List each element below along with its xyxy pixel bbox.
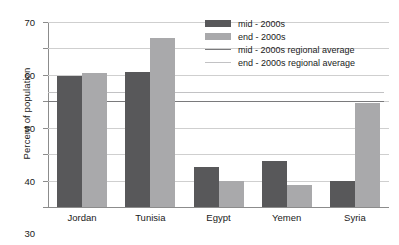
y-axis-tick: 60 [43,48,48,49]
legend-item: mid - 2000s regional average [205,43,355,56]
y-axis-tick-label: 60 [24,69,35,80]
y-axis-title: Percent of population [21,34,32,194]
legend-swatch-icon [205,20,231,27]
y-axis-tick: 30 [43,128,48,129]
legend-line-glyph [205,49,231,50]
bar-chart: Percent of population 010203040506070 Jo… [0,0,399,245]
bar [125,72,150,207]
legend-item: end - 2000s [205,30,355,43]
x-axis-line [48,207,389,208]
y-axis-tick: 50 [43,75,48,76]
legend-line-glyph [205,62,231,63]
x-axis-label: Egypt [206,212,230,223]
y-axis-tick-label: 70 [24,17,35,28]
bar [262,161,287,207]
legend-label: end - 2000s [238,32,286,42]
legend-item: end - 2000s regional average [205,56,355,69]
bar [82,73,107,207]
bar [194,167,219,207]
x-axis-label: Yemen [272,212,301,223]
legend-label: end - 2000s regional average [238,58,355,68]
bar [150,38,175,207]
y-axis-tick: 0 [43,207,48,208]
bar [57,76,82,207]
bar [355,103,380,207]
legend-line-icon [205,46,231,53]
legend-label: mid - 2000s regional average [238,45,355,55]
y-axis-tick-label: 30 [24,228,35,239]
x-axis-label: Tunisia [135,212,165,223]
y-axis-tick: 70 [43,22,48,23]
bar [219,181,244,207]
legend-swatch-icon [205,33,231,40]
legend-item: mid - 2000s [205,17,355,30]
y-axis-tick: 20 [43,154,48,155]
chart-legend: mid - 2000send - 2000smid - 2000s region… [205,17,355,69]
y-axis-tick: 10 [43,181,48,182]
legend-line-icon [205,59,231,66]
x-axis-label: Syria [344,212,366,223]
legend-label: mid - 2000s [238,19,285,29]
y-axis-line [48,22,49,207]
bar [287,185,312,207]
y-axis-tick-label: 50 [24,122,35,133]
y-axis-tick-label: 40 [24,175,35,186]
x-axis-label: Jordan [68,212,97,223]
bar [330,181,355,207]
